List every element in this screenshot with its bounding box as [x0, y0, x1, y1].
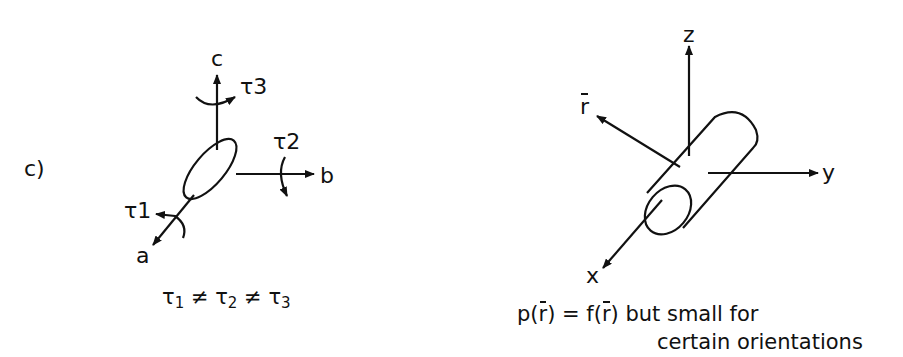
tau2-rotation-arc [281, 157, 287, 196]
tau1-label: τ1 [124, 200, 151, 222]
z-axis-label: z [683, 24, 695, 46]
cylinder-end-cap [635, 176, 700, 243]
a-axis-label: a [136, 245, 149, 267]
tau3-label: τ3 [240, 76, 267, 98]
b-axis-label: b [320, 165, 334, 187]
r-vector-label: r [580, 96, 589, 118]
a-axis-arrow [153, 195, 194, 245]
tau1-rotation-arc [156, 214, 184, 238]
probability-caption-line1: p(r) = f(r) but small for [517, 304, 758, 325]
diagram-canvas [0, 0, 903, 357]
tau2-label: τ2 [273, 131, 300, 153]
panel-label: c) [24, 158, 45, 180]
probability-caption-line2: certain orientations [657, 332, 863, 353]
cylinder-body [647, 112, 757, 228]
tau3-rotation-arc [196, 97, 235, 105]
tau-inequality-caption: τ1 ≠ τ2 ≠ τ3 [162, 287, 291, 311]
x-axis-arrow [603, 200, 662, 268]
c-axis-label: c [211, 48, 223, 70]
r-vector-arrow [597, 116, 680, 167]
molecule-ellipse [175, 131, 246, 207]
x-axis-label: x [586, 265, 599, 287]
y-axis-label: y [822, 162, 835, 184]
